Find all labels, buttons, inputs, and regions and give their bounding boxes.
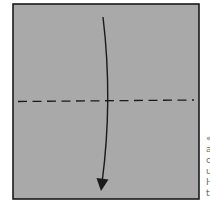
text-line: u	[206, 166, 210, 177]
text-line: a	[206, 144, 210, 155]
text-line: H	[206, 177, 210, 188]
text-line: «	[206, 133, 210, 144]
text-line: c	[206, 155, 210, 166]
origami-fold-diagram	[0, 0, 210, 210]
cropped-instruction-text: « a c u H t	[206, 133, 210, 199]
text-line: t	[206, 188, 210, 199]
